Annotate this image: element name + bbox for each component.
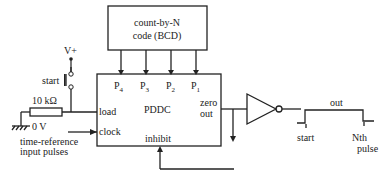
code-box-line2: code (BCD) xyxy=(133,30,182,42)
input-p1: P1 xyxy=(191,80,201,94)
resistor-label: 10 kΩ xyxy=(32,95,57,106)
code-box xyxy=(108,6,207,50)
resistor xyxy=(30,108,62,116)
zero-out-label-1: zero xyxy=(200,97,217,108)
input-p2: P2 xyxy=(166,80,176,94)
inverter-gate xyxy=(247,94,276,124)
load-label: load xyxy=(99,106,116,117)
output-label: out xyxy=(330,97,343,108)
supply-label: V+ xyxy=(64,45,77,56)
output-end-label-1: Nth xyxy=(352,132,367,143)
start-switch-label: start xyxy=(42,75,59,86)
output-waveform xyxy=(297,110,374,123)
input-p3: P3 xyxy=(140,80,150,94)
clock-note-2: input pulses xyxy=(20,146,68,157)
input-p4: P4 xyxy=(114,80,124,94)
zero-out-label-2: out xyxy=(200,108,213,119)
clock-label: clock xyxy=(99,126,121,137)
ground-label: 0 V xyxy=(32,121,47,132)
output-end-label-2: pulse xyxy=(357,143,379,154)
inhibit-label: inhibit xyxy=(145,133,171,144)
pddc-title: PDDC xyxy=(144,104,171,115)
code-box-line1: count-by-N xyxy=(134,17,180,28)
pddc-circuit-diagram: count-by-N code (BCD) P4 P3 P2 P1 PDDC l… xyxy=(0,0,387,180)
output-start-label: start xyxy=(297,132,314,143)
